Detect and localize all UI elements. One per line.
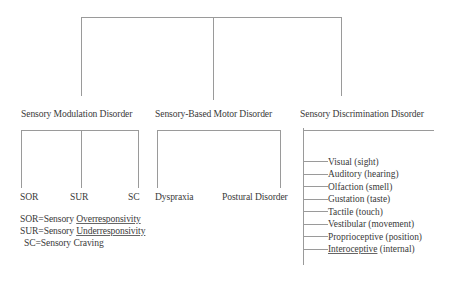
item-label: Auditory (hearing) bbox=[328, 169, 399, 179]
branch-postural bbox=[280, 130, 281, 188]
item-label: Proprioceptive (position) bbox=[328, 232, 422, 242]
legend-sur-term: Underresponsivity bbox=[76, 225, 145, 236]
item-label: Gustation (taste) bbox=[328, 194, 390, 204]
legend-sc: SC=Sensory Craving bbox=[24, 237, 104, 248]
category-sensory-based-motor-disorder: Sensory-Based Motor Disorder bbox=[155, 108, 272, 119]
motor-branch-horizontal bbox=[157, 130, 281, 131]
branch-sc bbox=[138, 130, 139, 188]
discrimination-item-auditory: Auditory (hearing) bbox=[303, 169, 399, 180]
item-stub bbox=[303, 199, 328, 200]
legend-sor-term: Overresponsivity bbox=[76, 213, 140, 224]
item-stub bbox=[303, 236, 328, 237]
branch-sur bbox=[81, 130, 82, 188]
discrimination-item-vestibular: Vestibular (movement) bbox=[303, 219, 414, 230]
item-label: Vestibular (movement) bbox=[328, 219, 414, 229]
legend-sur: SUR=Sensory Underresponsivity bbox=[20, 225, 145, 236]
connector-discrimination bbox=[341, 17, 342, 96]
category-sensory-modulation-disorder: Sensory Modulation Disorder bbox=[21, 108, 132, 119]
discrimination-item-gustation: Gustation (taste) bbox=[303, 194, 390, 205]
item-stub bbox=[303, 224, 328, 225]
subtype-postural-disorder: Postural Disorder bbox=[222, 191, 288, 202]
modulation-branch-horizontal bbox=[21, 130, 139, 131]
connector-motor bbox=[213, 17, 214, 100]
item-stub bbox=[303, 186, 328, 187]
discrimination-item-interoceptive: Interoceptive (internal) bbox=[303, 244, 415, 255]
item-label: Interoceptive (internal) bbox=[328, 244, 415, 254]
item-label: Visual (sight) bbox=[328, 157, 379, 167]
subtype-sor: SOR bbox=[20, 191, 38, 202]
subtype-sur: SUR bbox=[70, 191, 88, 202]
discrimination-item-tactile: Tactile (touch) bbox=[303, 206, 383, 217]
item-label: Tactile (touch) bbox=[328, 207, 383, 217]
discrimination-item-proprioceptive: Proprioceptive (position) bbox=[303, 231, 422, 242]
discrimination-branch-horizontal bbox=[303, 130, 434, 131]
subtype-sc: SC bbox=[128, 191, 140, 202]
branch-dyspraxia bbox=[157, 130, 158, 188]
legend-sc-abbr: SC=Sensory bbox=[24, 237, 71, 248]
legend-sor-abbr: SOR=Sensory bbox=[20, 213, 74, 224]
branch-sor bbox=[21, 130, 22, 188]
item-stub bbox=[303, 161, 328, 162]
legend-sc-term: Craving bbox=[73, 237, 103, 248]
discrimination-item-visual: Visual (sight) bbox=[303, 156, 379, 167]
connector-modulation bbox=[81, 17, 82, 96]
item-stub bbox=[303, 174, 328, 175]
subtype-dyspraxia: Dyspraxia bbox=[155, 191, 194, 202]
item-stub bbox=[303, 211, 328, 212]
legend-sur-abbr: SUR=Sensory bbox=[20, 225, 74, 236]
item-stub bbox=[303, 249, 328, 250]
discrimination-item-olfaction: Olfaction (smell) bbox=[303, 181, 392, 192]
item-label: Olfaction (smell) bbox=[328, 182, 392, 192]
legend-sor: SOR=Sensory Overresponsivity bbox=[20, 213, 141, 224]
root-connector-horizontal bbox=[81, 17, 342, 18]
category-sensory-discrimination-disorder: Sensory Discrimination Disorder bbox=[300, 108, 424, 119]
